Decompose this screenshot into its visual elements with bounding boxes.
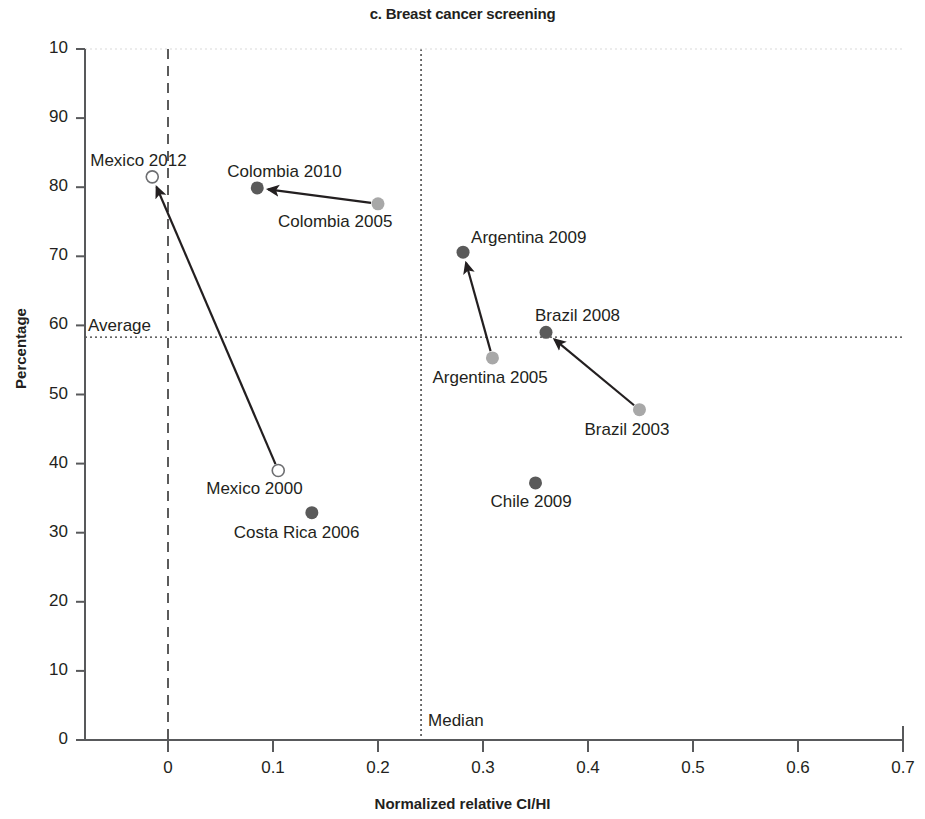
data-markers	[146, 171, 646, 519]
label-costa-rica-2006: Costa Rica 2006	[234, 523, 360, 543]
reference-lines	[85, 49, 903, 740]
data-point-costa-rica-2006	[305, 506, 318, 519]
arrow-argentina-2005-to-2009	[466, 263, 491, 351]
x-tick-label: 0.4	[553, 758, 623, 778]
x-tick-label: 0.2	[343, 758, 413, 778]
data-point-argentina-2009	[457, 246, 470, 259]
data-point-brazil-2003	[633, 403, 646, 416]
y-tick-label: 20	[22, 591, 68, 611]
axis-lines	[85, 49, 903, 740]
label-mexico-2000: Mexico 2000	[206, 479, 302, 499]
reference-label-average: Average	[87, 316, 152, 336]
label-brazil-2003: Brazil 2003	[584, 420, 669, 440]
y-tick-label: 40	[22, 453, 68, 473]
y-tick-label: 70	[22, 245, 68, 265]
x-tick-label: 0.6	[763, 758, 833, 778]
data-point-chile-2009	[529, 476, 542, 489]
data-point-brazil-2008	[540, 326, 553, 339]
y-tick-label: 0	[22, 729, 68, 749]
arrow-brazil-2003-to-2008	[554, 339, 634, 405]
data-point-mexico-2012	[146, 171, 158, 183]
label-chile-2009: Chile 2009	[491, 492, 572, 512]
x-tick-label: 0.7	[868, 758, 925, 778]
x-tick-label: 0.1	[238, 758, 308, 778]
x-tick-label: 0.5	[658, 758, 728, 778]
data-point-mexico-2000	[272, 465, 284, 477]
label-colombia-2010: Colombia 2010	[227, 162, 341, 182]
plot-area	[0, 0, 925, 819]
y-tick-label: 90	[22, 107, 68, 127]
arrow-colombia-2005-to-2010	[268, 189, 371, 203]
chart-container: c. Breast cancer screening Percentage No…	[0, 0, 925, 819]
y-tick-label: 50	[22, 384, 68, 404]
y-tick-label: 80	[22, 176, 68, 196]
data-point-colombia-2010	[251, 181, 264, 194]
label-brazil-2008: Brazil 2008	[535, 306, 620, 326]
y-tick-label: 60	[22, 314, 68, 334]
data-point-colombia-2005	[372, 197, 385, 210]
label-argentina-2005: Argentina 2005	[432, 368, 547, 388]
label-mexico-2012: Mexico 2012	[90, 151, 186, 171]
label-argentina-2009: Argentina 2009	[471, 228, 586, 248]
arrow-mexico-2000-to-2012	[157, 187, 276, 464]
data-point-argentina-2005	[486, 351, 499, 364]
axis-ticks	[76, 49, 903, 752]
reference-label-median: Median	[427, 711, 485, 731]
y-tick-label: 10	[22, 660, 68, 680]
y-tick-label: 30	[22, 522, 68, 542]
x-tick-label: 0.3	[448, 758, 518, 778]
x-tick-label: 0	[133, 758, 203, 778]
label-colombia-2005: Colombia 2005	[278, 212, 392, 232]
y-tick-label: 10	[22, 38, 68, 58]
